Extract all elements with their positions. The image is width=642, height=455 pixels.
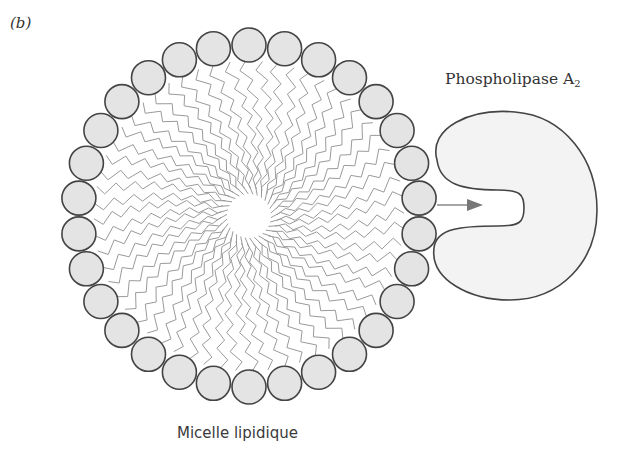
polar-head (380, 285, 414, 319)
polar-head (196, 32, 230, 66)
lipid-tail (253, 244, 329, 349)
lipid-tail (264, 240, 376, 305)
polar-head (395, 146, 429, 180)
polar-head (132, 61, 166, 95)
lipid-tail (269, 222, 404, 239)
polar-head (395, 252, 429, 286)
polar-head (402, 217, 436, 251)
lipid-tail (216, 234, 237, 368)
polar-head (69, 146, 103, 180)
polar-head (359, 85, 393, 119)
lipid-tail (94, 193, 229, 210)
polar-head (380, 114, 414, 148)
polar-head (105, 313, 139, 347)
lipid-tail (267, 68, 296, 195)
lipid-tail (202, 238, 231, 365)
micelle-diagram (0, 0, 642, 455)
polar-head (69, 252, 103, 286)
lipid-tail (169, 83, 245, 188)
polar-heads (62, 28, 436, 404)
polar-head (132, 337, 166, 371)
hydrophobic-tails (94, 61, 404, 371)
polar-head (268, 366, 302, 400)
lipid-tail (240, 61, 264, 196)
polar-head (302, 355, 336, 389)
lipid-tail (274, 99, 351, 203)
polar-head (84, 114, 118, 148)
polar-head (84, 285, 118, 319)
lipid-tail (147, 229, 224, 333)
polar-head (333, 337, 367, 371)
polar-head (268, 32, 302, 66)
polar-head (196, 366, 230, 400)
polar-head (105, 85, 139, 119)
lipid-tail (240, 243, 273, 370)
polar-head (302, 43, 336, 77)
arrow-icon (437, 199, 483, 211)
polar-head (333, 61, 367, 95)
lipid-tail (261, 64, 282, 198)
lipid-tail (225, 241, 242, 371)
polar-head (402, 181, 436, 215)
polar-head (62, 181, 96, 215)
lipid-tail (225, 62, 258, 189)
lipid-tail (273, 231, 402, 250)
phospholipase-enzyme-shape (434, 111, 597, 300)
polar-head (62, 217, 96, 251)
polar-head (359, 313, 393, 347)
polar-head (232, 28, 266, 62)
lipid-tail (256, 62, 273, 192)
polar-head (162, 355, 196, 389)
lipid-tail (122, 127, 234, 192)
lipid-tail (234, 237, 258, 372)
lipid-tail (97, 182, 226, 201)
polar-head (162, 43, 196, 77)
polar-head (232, 370, 266, 404)
